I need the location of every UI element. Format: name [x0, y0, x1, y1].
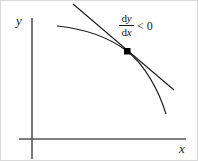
derivative-fraction: dy dx: [119, 13, 134, 38]
numerator-variable: y: [127, 12, 132, 24]
tangent-point-marker: [124, 48, 131, 55]
y-axis-label: y: [16, 14, 22, 27]
fraction-numerator: dy: [121, 13, 133, 24]
figure-canvas: [1, 1, 198, 161]
derivative-annotation: dy dx < 0: [119, 13, 153, 38]
decreasing-curve: [57, 26, 166, 114]
derivative-figure: y x dy dx < 0: [0, 0, 198, 161]
denominator-variable: x: [127, 26, 132, 38]
inequality-relation: < 0: [137, 20, 153, 32]
fraction-denominator: dx: [121, 27, 133, 38]
x-axis-label: x: [179, 142, 185, 155]
